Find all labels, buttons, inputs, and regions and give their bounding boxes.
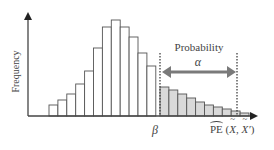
unshaded-bars: [49, 20, 156, 116]
histogram-bar: [76, 84, 85, 116]
arrow-left-icon: [162, 66, 171, 78]
pe-operator: PE: [210, 123, 223, 135]
x-axis-arrow-icon: [250, 112, 258, 120]
histogram-bar: [49, 105, 58, 116]
histogram-bar: [102, 27, 111, 116]
histogram-bar: [205, 105, 214, 116]
histogram-bar: [213, 107, 222, 116]
shaded-tail-bars: [160, 87, 249, 116]
histogram-bar: [169, 90, 178, 116]
histogram-bar: [147, 66, 156, 116]
x-axis-label: PE (X, X′): [210, 123, 254, 135]
probability-label: Probability: [170, 41, 228, 53]
histogram-bar: [187, 98, 196, 116]
histogram-bar: [160, 87, 169, 116]
histogram-bar: [94, 48, 103, 116]
alpha-symbol: α: [190, 55, 206, 70]
histogram-bar: [58, 100, 67, 116]
y-axis-arrow-icon: [24, 12, 32, 20]
beta-threshold-label: β: [152, 123, 158, 138]
histogram-bar: [138, 53, 147, 116]
x-prime-tilde: X′: [242, 123, 251, 135]
histogram-bar: [85, 71, 94, 116]
histogram-bar: [120, 27, 129, 116]
paren-close: ): [251, 123, 255, 135]
histogram-bar: [178, 94, 187, 116]
histogram-bar: [196, 102, 205, 116]
histogram-bar: [67, 94, 76, 116]
arrow-right-icon: [227, 66, 236, 78]
y-axis-label: Frequency: [10, 47, 21, 97]
histogram-bar: [129, 37, 138, 116]
histogram-bar: [111, 20, 120, 116]
x-tilde: X: [229, 123, 236, 135]
